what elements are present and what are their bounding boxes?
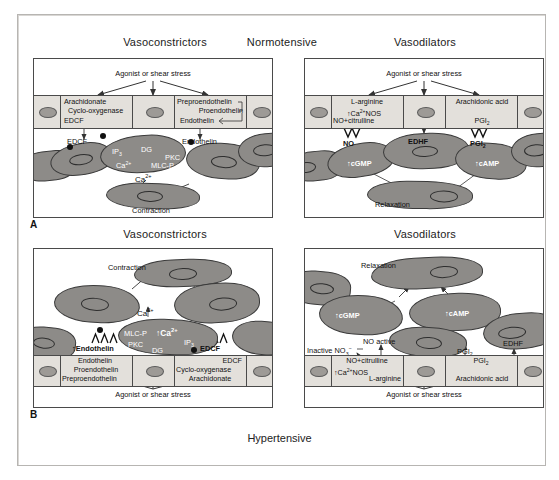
title-b-right: Vasodilators bbox=[345, 228, 505, 240]
gap-junction-dot bbox=[97, 327, 103, 333]
panel-a-right: Agonist or shear stress L-argin bbox=[304, 58, 544, 218]
label-dg-b-left: DG bbox=[152, 346, 163, 355]
title-normotensive: Normotensive bbox=[222, 36, 342, 48]
panel-b-right: Relaxation ↑cGMP ↑cAMP Inactive NO3− O2−… bbox=[304, 248, 544, 408]
outcome-relaxation-b-right: Relaxation bbox=[361, 261, 396, 270]
label-mlcp-b-left: MLC-P bbox=[124, 329, 147, 338]
endo-proendothelin: Proendothelin bbox=[177, 107, 243, 116]
endothelium-strip-b-left: Endothelin Proendothelin Preproendotheli… bbox=[34, 355, 272, 387]
endothelial-nucleus bbox=[253, 107, 271, 118]
endo-arachidonic-acid: Arachidonic acid bbox=[447, 98, 517, 107]
endo-l-arginine-b: L-arginine bbox=[333, 375, 401, 384]
mediator-endothelin-b-left: ↑Endothelin bbox=[72, 344, 114, 353]
endo-no-citrulline: NO+citrulline bbox=[333, 117, 374, 126]
outcome-contraction-b-left: Contraction bbox=[108, 263, 146, 272]
endo-l-arginine: L-arginine bbox=[333, 98, 401, 107]
mediator-edhf-a-right: EDHF bbox=[408, 137, 428, 146]
title-a-left: Vasoconstrictors bbox=[85, 36, 245, 48]
agonist-label-b-left: Agonist or shear stress bbox=[34, 390, 272, 399]
endothelial-nucleus bbox=[310, 366, 328, 377]
endo-preproendothelin-b: Preproendothelin bbox=[62, 375, 117, 384]
label-dg-a-left: DG bbox=[141, 145, 152, 154]
mediator-edhf-b-right: EDHF bbox=[503, 339, 523, 348]
endothelium-strip-b-right: NO+citrulline ↑Ca2+NOS L-arginine PGI2 A… bbox=[305, 355, 543, 387]
label-camp-a-right: ↑cAMP bbox=[475, 159, 499, 168]
agonist-label-b-right: Agonist or shear stress bbox=[305, 390, 543, 399]
label-ip3-b-left: IP3 bbox=[184, 338, 194, 348]
endothelial-nucleus bbox=[39, 366, 57, 377]
label-ca-free-b-left: Ca2+ bbox=[137, 307, 154, 318]
endothelial-nucleus bbox=[146, 366, 164, 377]
endothelial-nucleus bbox=[253, 366, 271, 377]
gap-junction-dot bbox=[100, 133, 106, 139]
panel-label-b: B bbox=[30, 409, 37, 420]
endothelial-nucleus bbox=[524, 107, 542, 118]
title-b-left: Vasoconstrictors bbox=[85, 228, 245, 240]
agonist-label-a-right: Agonist or shear stress bbox=[305, 69, 543, 78]
smooth-muscle-cell-relaxed bbox=[370, 254, 484, 292]
title-a-right: Vasodilators bbox=[345, 36, 505, 48]
label-ca-intracellular-a-left: Ca2+ bbox=[116, 160, 131, 170]
mediator-pgi2-a-right: PGI2 bbox=[470, 139, 486, 149]
panel-a-left: Agonist or shear stress bbox=[33, 58, 273, 218]
label-ca-free-a-left: Ca2+ bbox=[135, 173, 152, 184]
mediator-no-a-right: NO bbox=[343, 139, 354, 148]
smooth-muscle-cell bbox=[173, 280, 262, 326]
endothelium-strip-a-left: Arachidonate Cyclo-oxygenase EDCF Prepro… bbox=[34, 95, 272, 129]
endothelial-nucleus bbox=[417, 107, 435, 118]
panel-label-a: A bbox=[30, 219, 37, 230]
smooth-muscle-cell bbox=[53, 282, 141, 326]
endo-arachidonic-acid-b: Arachidonic acid bbox=[447, 375, 517, 384]
endothelial-nucleus bbox=[146, 107, 164, 118]
endothelial-nucleus bbox=[417, 366, 435, 377]
outcome-contraction-a-left: Contraction bbox=[96, 206, 206, 215]
label-mlcp-a-left: MLC-P bbox=[151, 161, 174, 170]
endo-endothelin: Endothelin bbox=[180, 117, 214, 126]
endothelial-nucleus bbox=[524, 366, 542, 377]
mediator-edcf-a-left: EDCF bbox=[67, 137, 87, 146]
mediator-no-active-b-right: NO active bbox=[363, 337, 395, 346]
label-ca-intracellular-b-left: ↑Ca2+ bbox=[156, 327, 178, 338]
mediator-edcf-b-left: EDCF bbox=[200, 344, 220, 353]
mediator-endothelin-a-left: Endothelin bbox=[182, 137, 217, 146]
label-pkc-b-left: PKC bbox=[128, 340, 143, 349]
agonist-label-a-left: Agonist or shear stress bbox=[34, 69, 272, 78]
endothelial-nucleus bbox=[39, 107, 57, 118]
label-ip3-a-left: IP3 bbox=[112, 147, 122, 157]
endo-cyclooxygenase: Cyclo-oxygenase bbox=[68, 107, 123, 116]
smooth-muscle-cell-cgmp bbox=[318, 292, 405, 338]
endo-edcf: EDCF bbox=[64, 117, 84, 126]
endo-arachidonate-b: Arachidonate bbox=[176, 375, 244, 384]
endo-no-citrulline-b: NO+citrulline bbox=[333, 357, 401, 366]
endothelial-nucleus bbox=[310, 107, 328, 118]
endothelium-strip-a-right: L-arginine ↑Ca2+NOS NO+citrulline Arachi… bbox=[305, 95, 543, 129]
label-cgmp-b-right: ↑cGMP bbox=[335, 311, 360, 320]
endo-pgi2: PGI2 bbox=[447, 117, 517, 128]
outcome-relaxation-a-right: Relaxation bbox=[375, 200, 410, 209]
label-camp-b-right: ↑cAMP bbox=[445, 309, 469, 318]
panel-b-left: Contraction Ca2+ MLC-P ↑Ca2+ PKC DG IP3 … bbox=[33, 248, 273, 408]
smooth-muscle-cell bbox=[231, 318, 273, 357]
title-hypertensive: Hypertensive bbox=[0, 432, 559, 444]
label-cgmp-a-right: ↑cGMP bbox=[347, 159, 372, 168]
endo-pgi2-b: PGI2 bbox=[447, 357, 515, 368]
